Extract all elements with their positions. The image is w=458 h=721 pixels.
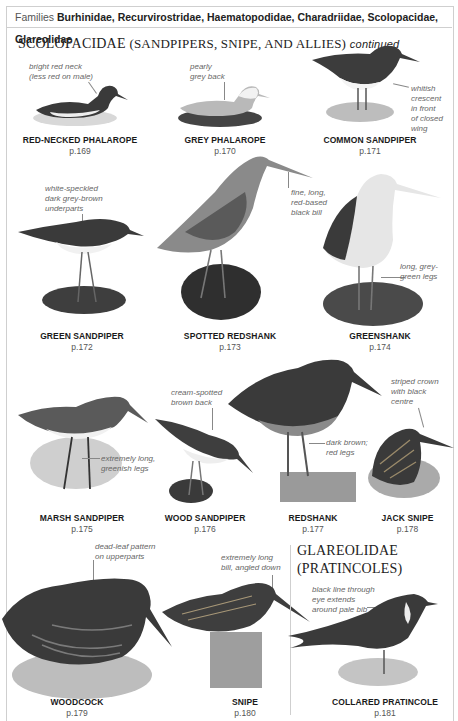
- note-green-sandpiper: white-speckleddark grey-brownunderparts: [45, 184, 103, 214]
- note-wood-sandpiper: cream-spottedbrown back: [171, 388, 222, 408]
- section-name: GLAREOLIDAE: [297, 543, 398, 558]
- bird-illustration-collared-pratincole: [288, 592, 438, 692]
- bird-illustration-greenshank: [323, 170, 443, 330]
- note-common-sandpiper: whitishcrescentin frontof closedwing: [411, 84, 443, 134]
- note-marsh-sandpiper: extremely long,greenish legs: [101, 454, 155, 474]
- bird-illustration-jack-snipe: [366, 420, 456, 500]
- families-header: Families Burhinidae, Recurvirostridae, H…: [6, 6, 452, 28]
- leader-line: [82, 458, 100, 459]
- leader-line: [288, 172, 289, 188]
- caption-greenshank: GREENSHANKp.174: [320, 331, 440, 353]
- bird-illustration-green-sandpiper: [16, 218, 146, 318]
- section-name: SCOLOPACIDAE: [18, 36, 126, 51]
- note-woodcock: dead-leaf patternon upperparts: [95, 542, 156, 562]
- caption-spotted-redshank: SPOTTED REDSHANKp.173: [170, 331, 290, 353]
- caption-red-necked-phalarope: RED-NECKED PHALAROPEp.169: [20, 135, 140, 157]
- caption-common-sandpiper: COMMON SANDPIPERp.171: [310, 135, 430, 157]
- section-subtitle: (PRATINCOLES): [297, 561, 402, 576]
- caption-jack-snipe: JACK SNIPEp.178: [360, 513, 455, 535]
- note-spotted-redshank: fine, long,red-basedblack bill: [291, 188, 327, 218]
- bird-illustration-red-necked-phalarope: [30, 78, 130, 128]
- bird-illustration-spotted-redshank: [155, 152, 315, 322]
- section-title-glareolidae: GLAREOLIDAE (PRATINCOLES): [297, 542, 402, 578]
- note-jack-snipe: striped crownwith blackcentre: [391, 377, 439, 407]
- bird-illustration-common-sandpiper: [310, 44, 425, 126]
- caption-wood-sandpiper: WOOD SANDPIPERp.176: [150, 513, 260, 535]
- caption-woodcock: WOODCOCKp.179: [22, 697, 132, 719]
- caption-marsh-sandpiper: MARSH SANDPIPERp.175: [22, 513, 142, 535]
- bird-illustration-woodcock: [2, 575, 177, 700]
- note-snipe: extremely longbill, angled down: [221, 553, 281, 573]
- note-greenshank: long, grey-green legs: [400, 262, 438, 282]
- bird-illustration-redshank: [228, 354, 388, 504]
- bird-illustration-grey-phalarope: [172, 78, 272, 128]
- families-label: Families: [15, 11, 54, 23]
- leader-line: [309, 443, 325, 444]
- caption-green-sandpiper: GREEN SANDPIPERp.172: [22, 331, 142, 353]
- caption-snipe: SNIPEp.180: [195, 697, 295, 719]
- caption-collared-pratincole: COLLARED PRATINCOLEp.181: [320, 697, 450, 719]
- note-redshank: dark brown;red legs: [326, 438, 368, 458]
- bird-illustration-marsh-sandpiper: [16, 393, 151, 503]
- caption-redshank: REDSHANKp.177: [258, 513, 368, 535]
